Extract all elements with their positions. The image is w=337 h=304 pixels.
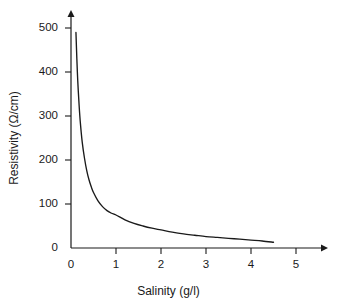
x-tick-label-0: 0 (68, 259, 74, 271)
y-tick-label-500: 500 (32, 22, 58, 34)
y-axis-ticks (65, 28, 71, 204)
plot-canvas (0, 0, 337, 304)
x-axis-title: Salinity (g/l) (0, 284, 337, 298)
x-axis-ticks (116, 248, 296, 254)
x-tick-label-5: 5 (293, 259, 299, 271)
x-tick-label-4: 4 (248, 259, 254, 271)
x-tick-label-3: 3 (203, 259, 209, 271)
chart-figure: 500 400 300 200 100 0 0 1 2 3 4 5 Salini… (0, 0, 337, 304)
y-tick-label-0: 0 (32, 242, 58, 254)
y-tick-label-300: 300 (32, 110, 58, 122)
y-axis-title: Resistivity (Ω/cm) (7, 91, 21, 185)
x-tick-label-1: 1 (113, 259, 119, 271)
y-tick-label-400: 400 (32, 66, 58, 78)
y-tick-label-200: 200 (32, 154, 58, 166)
resistivity-curve (76, 32, 274, 242)
x-tick-label-2: 2 (158, 259, 164, 271)
y-tick-label-100: 100 (32, 198, 58, 210)
